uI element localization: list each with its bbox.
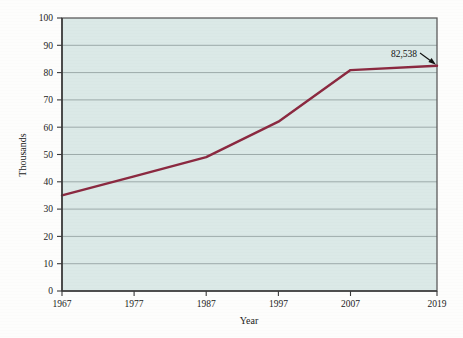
- x-tick-label-2007: 2007: [341, 299, 360, 309]
- y-tick-label-10: 10: [44, 259, 54, 269]
- y-tick-label-60: 60: [44, 123, 54, 133]
- y-tick-label-70: 70: [44, 95, 54, 105]
- y-tick-label-0: 0: [48, 286, 53, 296]
- y-tick-label-90: 90: [44, 41, 54, 51]
- x-tick-label-1977: 1977: [125, 299, 144, 309]
- y-tick-label-20: 20: [44, 232, 54, 242]
- x-tick-label-1997: 1997: [269, 299, 288, 309]
- y-tick-label-30: 30: [44, 204, 54, 214]
- chart-figure: 0 10 20 30 40 50 60 70 80 90 100 1967 19…: [0, 0, 463, 338]
- y-tick-label-50: 50: [44, 150, 54, 160]
- x-tick-label-1967: 1967: [53, 299, 72, 309]
- y-tick-label-100: 100: [39, 13, 54, 23]
- line-chart-svg: 0 10 20 30 40 50 60 70 80 90 100 1967 19…: [0, 0, 463, 338]
- y-tick-label-80: 80: [44, 68, 54, 78]
- y-axis-title: Thousands: [17, 133, 28, 176]
- x-tick-label-1987: 1987: [197, 299, 216, 309]
- endpoint-value-label: 82,538: [391, 49, 417, 59]
- y-tick-label-40: 40: [44, 177, 54, 187]
- x-tick-label-2019: 2019: [428, 299, 447, 309]
- x-axis-title: Year: [240, 315, 259, 326]
